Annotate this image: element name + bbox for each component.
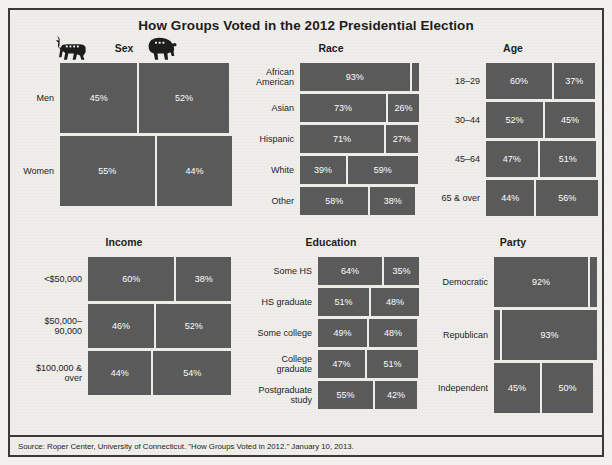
- bar-segment-rep: 59%: [348, 156, 418, 184]
- row-label: Collegegraduate: [244, 350, 318, 378]
- bar-segment-rep: 50%: [542, 363, 593, 413]
- row-bars: 64%35%: [318, 257, 418, 285]
- bar-segment-rep: [412, 63, 419, 91]
- row-bars: 71%27%: [300, 125, 418, 153]
- row-bars: 93%: [300, 63, 418, 91]
- row-bars: 47%51%: [486, 141, 596, 177]
- row-bars: 55%42%: [318, 381, 418, 409]
- mosaic-row: Collegegraduate47%51%: [244, 350, 418, 378]
- bar-gap: [597, 63, 600, 99]
- mosaic-row: $100,000 &over44%54%: [16, 351, 232, 395]
- row-bars: 52%45%: [486, 102, 596, 138]
- panel-race-header: Race: [238, 33, 424, 63]
- bar-segment-rep: 56%: [536, 180, 598, 216]
- bar-segment-rep: 48%: [371, 288, 419, 316]
- bar-gap: [417, 187, 422, 215]
- panel-party: Party Democratic92%Republican93%Independ…: [424, 227, 602, 416]
- bar-segment-rep: 26%: [388, 94, 419, 122]
- row-bars: 49%48%: [318, 319, 418, 347]
- bar-segment-rep: 51%: [540, 141, 596, 177]
- bar-segment-rep: 38%: [176, 257, 231, 301]
- bar-segment-dem: [494, 310, 500, 360]
- bar-segment-dem: 58%: [300, 187, 368, 215]
- bar-segment-dem: 55%: [318, 381, 373, 409]
- bar-gap: [421, 94, 423, 122]
- mosaic-row: 30–4452%45%: [430, 102, 596, 138]
- bar-gap: [420, 125, 422, 153]
- row-label: 30–44: [430, 102, 486, 138]
- panel-sex-title: Sex: [115, 42, 134, 54]
- bar-segment-dem: 73%: [300, 94, 386, 122]
- row-label: Some HS: [244, 257, 318, 285]
- bar-gap: [421, 257, 423, 285]
- elephant-icon: [140, 35, 180, 61]
- panel-age-rows: 18–2960%37%30–4452%45%45–6447%51%65 & ov…: [424, 63, 602, 216]
- panel-income: Income <$50,00060%38%$50,000–90,00046%52…: [10, 227, 238, 416]
- bar-segment-dem: 64%: [318, 257, 382, 285]
- bar-gap: [419, 319, 422, 347]
- bar-segment-rep: 52%: [156, 304, 231, 348]
- bar-segment-dem: 47%: [318, 350, 365, 378]
- mosaic-row: Democratic92%: [430, 257, 596, 307]
- bar-segment-rep: 38%: [370, 187, 415, 215]
- panel-party-rows: Democratic92%Republican93%Independent45%…: [424, 257, 602, 413]
- bar-segment-rep: 27%: [386, 125, 418, 153]
- mosaic-row: $50,000–90,00046%52%: [16, 304, 232, 348]
- bar-gap: [597, 102, 600, 138]
- mosaic-row: Some HS64%35%: [244, 257, 418, 285]
- panel-race-rows: AfricanAmerican93%Asian73%26%Hispanic71%…: [238, 63, 424, 215]
- row-label: Other: [244, 187, 300, 215]
- panel-age-header: Age: [424, 33, 602, 63]
- panel-party-header: Party: [424, 227, 602, 257]
- row-bars: 73%26%: [300, 94, 418, 122]
- panel-education: Education Some HS64%35%HS graduate51%48%…: [238, 227, 424, 416]
- row-label: $100,000 &over: [16, 351, 88, 395]
- mosaic-row: 65 & over44%56%: [430, 180, 596, 216]
- donkey-icon: [52, 35, 92, 61]
- row-bars: 93%: [494, 310, 596, 360]
- row-bars: 92%: [494, 257, 596, 307]
- bar-segment-dem: 44%: [486, 180, 534, 216]
- bar-gap: [231, 63, 236, 133]
- bar-segment-dem: 55%: [60, 136, 155, 206]
- bar-gap: [599, 257, 601, 307]
- bar-segment-rep: 35%: [384, 257, 419, 285]
- infographic-frame: How Groups Voted in the 2012 Presidentia…: [8, 8, 604, 457]
- row-label: Independent: [430, 363, 494, 413]
- panel-sex-header: Sex: [10, 33, 238, 63]
- row-label: $50,000–90,000: [16, 304, 88, 348]
- panel-race: Race AfricanAmerican93%Asian73%26%Hispan…: [238, 33, 424, 219]
- bar-segment-dem: 46%: [88, 304, 154, 348]
- mosaic-row: 18–2960%37%: [430, 63, 596, 99]
- mosaic-row: AfricanAmerican93%: [244, 63, 418, 91]
- bar-segment-dem: 47%: [486, 141, 538, 177]
- bar-segment-dem: 45%: [494, 363, 540, 413]
- row-label: Hispanic: [244, 125, 300, 153]
- bar-segment-dem: 49%: [318, 319, 367, 347]
- mosaic-row: 45–6447%51%: [430, 141, 596, 177]
- bar-segment-dem: 51%: [318, 288, 369, 316]
- panel-education-rows: Some HS64%35%HS graduate51%48%Some colle…: [238, 257, 424, 409]
- bar-gap: [595, 363, 600, 413]
- row-bars: 58%38%: [300, 187, 418, 215]
- panel-sex: Sex Men45%52%Women55%44%: [10, 33, 238, 219]
- bar-segment-rep: 44%: [157, 136, 233, 206]
- bar-segment-dem: 44%: [88, 351, 151, 395]
- mosaic-row: Hispanic71%27%: [244, 125, 418, 153]
- mosaic-row: Postgraduatestudy55%42%: [244, 381, 418, 409]
- bar-segment-rep: [590, 257, 597, 307]
- row-bars: 45%52%: [60, 63, 232, 133]
- mosaic-row: Women55%44%: [16, 136, 232, 206]
- top-panel-row: Sex Men45%52%Women55%44% Race AfricanAme…: [10, 33, 602, 219]
- bar-gap: [420, 350, 422, 378]
- bar-segment-dem: 39%: [300, 156, 346, 184]
- bar-gap: [421, 63, 423, 91]
- mosaic-row: Republican93%: [430, 310, 596, 360]
- panel-sex-rows: Men45%52%Women55%44%: [10, 63, 238, 206]
- bar-segment-rep: 45%: [545, 102, 595, 138]
- panel-age: Age 18–2960%37%30–4452%45%45–6447%51%65 …: [424, 33, 602, 219]
- row-bars: 44%54%: [88, 351, 232, 395]
- row-label: Asian: [244, 94, 300, 122]
- page-title: How Groups Voted in the 2012 Presidentia…: [10, 10, 602, 33]
- mosaic-row: Other58%38%: [244, 187, 418, 215]
